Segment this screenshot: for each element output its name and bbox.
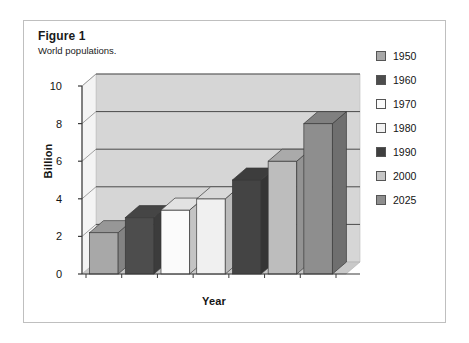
figure-title: Figure 1: [38, 29, 338, 43]
figure-frame: Figure 1 World populations. Billion 0246…: [23, 20, 446, 323]
legend-item-1980[interactable]: 1980: [376, 116, 446, 140]
figure-subtitle: World populations.: [38, 44, 338, 57]
bar-2025: [304, 112, 347, 274]
legend-item-label: 1970: [393, 98, 416, 110]
y-tick-label: 6: [56, 155, 62, 167]
figure-caption: Figure 1 World populations.: [38, 29, 338, 57]
legend-swatch-icon: [376, 171, 386, 181]
legend-item-1990[interactable]: 1990: [376, 140, 446, 164]
legend-item-label: 2025: [393, 194, 416, 206]
chart-legend: 1950196019701980199020002025: [376, 44, 446, 212]
bar-chart-plot: [64, 69, 374, 291]
legend-item-1970[interactable]: 1970: [376, 92, 446, 116]
legend-item-label: 1980: [393, 122, 416, 134]
legend-swatch-icon: [376, 51, 386, 61]
legend-swatch-icon: [376, 147, 386, 157]
legend-item-1960[interactable]: 1960: [376, 68, 446, 92]
legend-item-label: 1950: [393, 50, 416, 62]
legend-item-2025[interactable]: 2025: [376, 188, 446, 212]
legend-item-label: 1990: [393, 146, 416, 158]
legend-item-label: 1960: [393, 74, 416, 86]
y-tick-label: 4: [56, 193, 62, 205]
y-tick-label: 8: [56, 118, 62, 130]
y-tick-label: 10: [50, 80, 62, 92]
y-tick-label: 0: [56, 268, 62, 280]
legend-swatch-icon: [376, 123, 386, 133]
legend-item-label: 2000: [393, 170, 416, 182]
x-axis-title: Year: [64, 295, 364, 307]
y-tick-label: 2: [56, 230, 62, 242]
y-axis-tick-labels: 0246810: [36, 69, 62, 281]
legend-item-1950[interactable]: 1950: [376, 44, 446, 68]
legend-swatch-icon: [376, 75, 386, 85]
legend-swatch-icon: [376, 195, 386, 205]
legend-item-2000[interactable]: 2000: [376, 164, 446, 188]
legend-swatch-icon: [376, 99, 386, 109]
